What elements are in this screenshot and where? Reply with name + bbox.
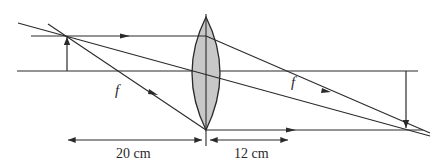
ray-parallel-refracted — [206, 36, 430, 133]
focal-label-left: f — [115, 82, 121, 98]
ray-focal-incident — [48, 24, 206, 130]
ray-parallel-arrow-icon — [120, 34, 130, 39]
focal-label-right: f — [291, 74, 297, 90]
ray-parallel-out-arrow-icon — [286, 128, 296, 133]
ray-refracted-arrow-icon — [321, 88, 331, 93]
object-distance-label: 20 cm — [116, 146, 151, 161]
lens-ray-diagram: f f 20 cm 12 cm — [0, 0, 448, 165]
ray-focal-arrow-icon — [148, 89, 158, 95]
image-distance-label: 12 cm — [234, 146, 269, 161]
ray-central — [18, 23, 430, 136]
